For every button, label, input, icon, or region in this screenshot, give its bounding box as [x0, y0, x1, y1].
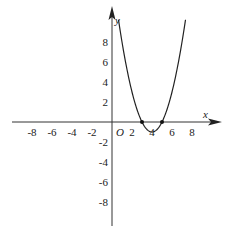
zero-point	[160, 120, 164, 124]
y-axis-label: y	[114, 14, 120, 26]
origin-label: O	[116, 126, 124, 138]
x-tick-label: 2	[129, 126, 135, 138]
x-tick-label: -4	[67, 126, 77, 138]
x-tick-label: 8	[189, 126, 195, 138]
x-tick-label: -2	[87, 126, 96, 138]
zero-point	[140, 120, 144, 124]
y-tick-label: -6	[99, 176, 109, 188]
x-axis-label: x	[202, 108, 208, 120]
x-tick-label: 6	[169, 126, 175, 138]
y-tick-label: 2	[103, 96, 109, 108]
x-tick-label: -6	[47, 126, 57, 138]
x-tick-label: -8	[27, 126, 37, 138]
y-tick-label: 4	[103, 76, 109, 88]
parabola-curve	[119, 20, 186, 132]
axes	[12, 6, 222, 226]
y-tick-label: 8	[103, 36, 109, 48]
y-tick-label: -4	[99, 156, 109, 168]
function-graph: -8-6-4-22468-8-6-4-22468 x y O	[0, 0, 229, 237]
y-tick-label: -8	[99, 196, 109, 208]
y-tick-label: 6	[103, 56, 109, 68]
y-tick-label: -2	[99, 136, 108, 148]
